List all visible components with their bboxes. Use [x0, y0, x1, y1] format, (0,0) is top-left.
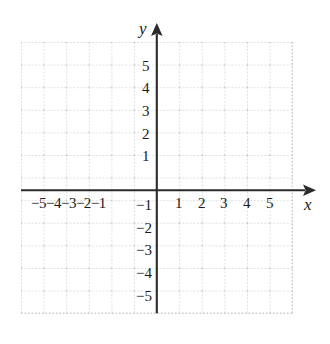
x-axis-label: x	[304, 196, 312, 213]
x-tick-label-neg-4: −4	[46, 196, 61, 211]
y-tick-label-4: 4	[142, 81, 150, 96]
y-tick-label-neg-4: −4	[136, 266, 152, 281]
x-tick-label-neg-2: −2	[76, 196, 91, 211]
x-tick-label-neg-1: −1	[91, 196, 106, 211]
y-tick-label-neg-3: −3	[136, 243, 152, 258]
x-tick-label-3: 3	[220, 196, 228, 211]
coordinate-grid-canvas	[0, 0, 330, 344]
x-tick-label-5: 5	[266, 196, 274, 211]
x-tick-label-1: 1	[175, 196, 183, 211]
x-tick-label-4: 4	[243, 196, 251, 211]
y-tick-label-neg-2: −2	[136, 221, 152, 236]
y-tick-label-1: 1	[142, 149, 150, 164]
y-tick-label-neg-5: −5	[136, 289, 152, 304]
y-tick-label-5: 5	[142, 59, 150, 74]
y-tick-label-neg-1: −1	[136, 198, 152, 213]
x-tick-label-neg-3: −3	[61, 196, 76, 211]
coordinate-plane-figure: y x 5 4 3 2 1 −1 −2 −3 −4 −5 −5 −4 −3 −2…	[0, 0, 330, 344]
x-tick-label-neg-5: −5	[31, 196, 46, 211]
y-tick-label-3: 3	[142, 104, 150, 119]
x-negative-tick-group: −5 −4 −3 −2 −1	[31, 196, 106, 211]
y-axis-label: y	[139, 20, 147, 37]
y-tick-label-2: 2	[142, 127, 150, 142]
x-tick-label-2: 2	[198, 196, 206, 211]
